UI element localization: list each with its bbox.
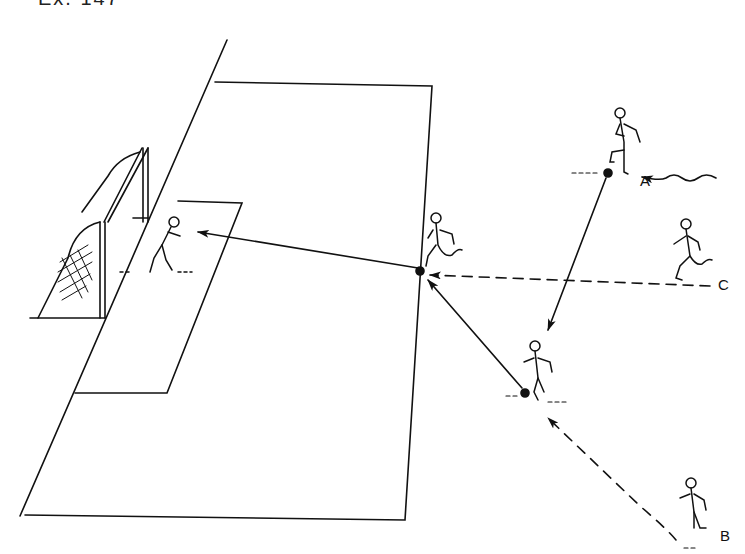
ball-a: [604, 169, 612, 177]
penalty-area: [25, 82, 432, 520]
pass-b-to-striker: [428, 280, 522, 388]
player-c-figure: [674, 219, 712, 280]
label-b: B: [720, 527, 730, 544]
goal-net: [58, 245, 92, 300]
goal-line: [20, 40, 227, 516]
goalkeeper-figure: [120, 217, 192, 272]
goal-icon: [30, 148, 148, 318]
shot-arrow: [198, 232, 418, 268]
run-c: [430, 275, 710, 286]
run-b: [548, 418, 676, 540]
label-a: A: [640, 172, 650, 189]
player-b-figure: [680, 478, 706, 528]
label-c: C: [718, 276, 729, 293]
dribble-arrow: [642, 175, 716, 181]
player-a-figure: [610, 108, 640, 174]
drill-diagram: A C B: [0, 0, 745, 554]
ball-b: [521, 389, 529, 397]
pass-a-to-b: [548, 178, 606, 330]
striker-figure: [426, 213, 462, 266]
